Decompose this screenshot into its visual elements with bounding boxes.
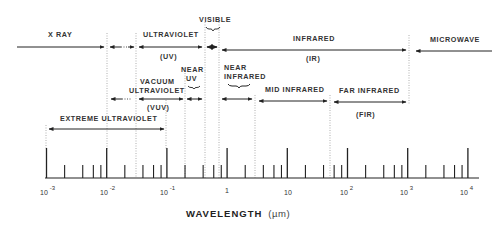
- tick-label-3: 1: [225, 187, 229, 194]
- near-ir-label-2: INFRARED: [224, 72, 266, 81]
- tick-label-7: 104: [460, 185, 474, 196]
- xray-label: X RAY: [48, 30, 72, 39]
- near-uv-brace: [188, 86, 200, 89]
- far-ir-label: FAR INFRARED: [339, 86, 400, 95]
- spectrum-diagram: X RAY ULTRAVIOLET (UV) VISIBLE INFRARED …: [0, 0, 501, 228]
- tick-label-1: 10-2: [100, 185, 116, 196]
- ultraviolet-label: ULTRAVIOLET: [143, 30, 199, 39]
- axis-title: WAVELENGTH(µm): [186, 208, 290, 219]
- tick-label-0: 10-3: [40, 185, 56, 196]
- wavelength-axis: [45, 148, 479, 178]
- infrared-label: INFRARED: [293, 34, 335, 43]
- visible-brace: [206, 27, 220, 31]
- tick-labels: 10-3 10-2 10-1 1 10 102 103 104: [40, 185, 474, 196]
- visible-label: VISIBLE: [199, 15, 231, 24]
- near-ir-brace: [228, 84, 250, 88]
- fir-abbr: (FIR): [356, 110, 375, 119]
- vacuum-uv-label-2: ULTRAVIOLET: [129, 86, 185, 95]
- near-uv-label-1: NEAR: [181, 65, 204, 74]
- vuv-abbr: (VUV): [147, 103, 170, 112]
- extreme-uv-label: EXTREME ULTRAVIOLET: [60, 114, 157, 123]
- near-ir-label-1: NEAR: [224, 63, 247, 72]
- uv-abbr: (UV): [160, 52, 177, 61]
- tick-label-6: 103: [400, 185, 414, 196]
- tick-label-2: 10-1: [160, 185, 176, 196]
- tick-label-4: 10: [284, 189, 292, 196]
- microwave-label: MICROWAVE: [430, 35, 480, 44]
- ir-abbr: (IR): [306, 54, 320, 63]
- vacuum-uv-label-1: VACUUM: [140, 77, 175, 86]
- near-uv-label-2: UV: [186, 74, 197, 83]
- tick-label-5: 102: [340, 185, 354, 196]
- mid-ir-label: MID INFRARED: [265, 85, 325, 94]
